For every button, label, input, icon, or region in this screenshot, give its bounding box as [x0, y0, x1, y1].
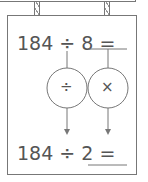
flow-diagram	[0, 0, 148, 182]
divide-symbol: ÷	[60, 78, 73, 96]
arrow-down-icon	[105, 129, 111, 135]
arrow-down-icon	[64, 129, 70, 135]
multiply-symbol: ×	[101, 78, 114, 96]
